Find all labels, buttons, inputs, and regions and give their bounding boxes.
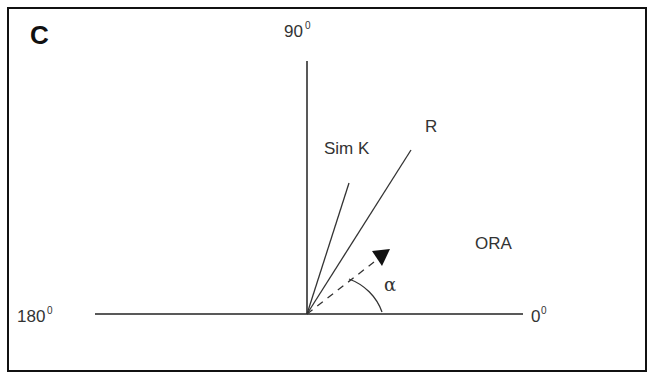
alpha-label: α [384, 274, 396, 295]
axis-label-0-degree: 0 [541, 305, 547, 316]
axis-label-90-degree: 0 [305, 20, 311, 31]
polar-diagram: C 90 0 180 0 0 0 Sim K R α ORA [0, 0, 653, 378]
axis-label-180-degree: 0 [47, 305, 53, 316]
r-label: R [425, 117, 437, 136]
sim-k-label: Sim K [324, 139, 370, 158]
panel-label: C [30, 20, 49, 50]
arrowhead-icon [372, 249, 390, 266]
axis-label-90: 90 [284, 22, 303, 41]
ora-label: ORA [475, 234, 513, 253]
alpha-angle-arc [349, 279, 382, 312]
axis-label-0: 0 [531, 307, 540, 326]
sim-k-vector [307, 183, 349, 314]
axis-label-180: 180 [17, 307, 45, 326]
